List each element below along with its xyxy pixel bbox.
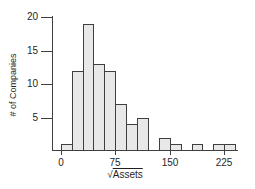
y-axis-tick [41, 118, 52, 119]
histogram-bar [192, 144, 203, 151]
histogram-bar [137, 118, 149, 151]
y-axis-tick [41, 84, 52, 85]
y-axis-line [52, 16, 53, 151]
histogram-bar [224, 144, 236, 151]
x-axis-tick-label: 0 [41, 157, 81, 169]
x-axis-tick-label: 225 [204, 157, 244, 169]
y-axis-tick-label: 20 [8, 11, 38, 23]
plot-area: 5101520075150225 [52, 14, 238, 151]
x-axis-tick [224, 150, 225, 155]
histogram-bar [170, 144, 182, 151]
x-axis-title: √Assets [85, 168, 165, 181]
y-axis-tick-label: 5 [8, 112, 38, 124]
x-axis-tick [115, 150, 116, 155]
y-axis-tick [41, 17, 52, 18]
y-axis-tick-label: 15 [8, 45, 38, 57]
histogram-figure: # of Companies 5101520075150225 √Assets [0, 0, 255, 189]
x-axis-title-word: Assets [113, 169, 143, 180]
y-axis-tick [41, 51, 52, 52]
y-axis-tick-label: 10 [8, 78, 38, 90]
x-axis-tick [170, 150, 171, 155]
x-axis-tick [61, 150, 62, 155]
